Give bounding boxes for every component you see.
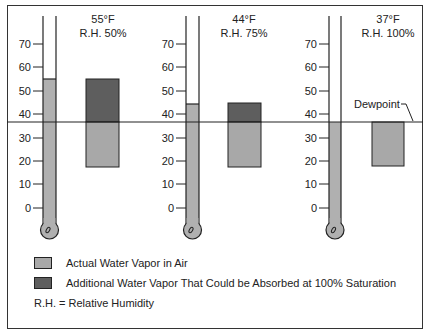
legend-swatch-actual (34, 257, 52, 269)
panel-temp-label: 37°F (376, 13, 400, 25)
legend-item-actual: Actual Water Vapor in Air (34, 257, 188, 269)
svg-text:10: 10 (162, 178, 174, 190)
panel-temp-label: 44°F (232, 13, 256, 25)
legend-swatch-additional (34, 277, 52, 289)
svg-text:40: 40 (162, 108, 174, 120)
actual-vapor-bar (228, 122, 261, 167)
svg-text:40: 40 (305, 108, 317, 120)
svg-text:60: 60 (305, 61, 317, 73)
panel-temp-label: 55°F (91, 13, 115, 25)
svg-text:70: 70 (305, 38, 317, 50)
svg-text:50: 50 (19, 85, 31, 97)
svg-text:10: 10 (19, 178, 31, 190)
legend-item-additional: Additional Water Vapor That Could be Abs… (34, 277, 396, 289)
svg-text:60: 60 (162, 61, 174, 73)
additional-vapor-bar (228, 103, 261, 122)
panel-rh-label: R.H. 75% (220, 27, 267, 39)
legend-label-actual: Actual Water Vapor in Air (66, 257, 188, 269)
svg-text:60: 60 (19, 61, 31, 73)
temperature-scale: 70 60 50 40 30 20 10 0 (162, 38, 186, 214)
svg-text:20: 20 (19, 155, 31, 167)
svg-text:0: 0 (25, 202, 31, 214)
svg-text:0: 0 (311, 202, 317, 214)
svg-text:50: 50 (162, 85, 174, 97)
panel-rh-label: R.H. 100% (361, 27, 414, 39)
panel-37f: 37°F R.H. 100% 70 60 50 40 30 20 10 0 De… (305, 13, 415, 239)
svg-text:30: 30 (162, 132, 174, 144)
svg-text:20: 20 (162, 155, 174, 167)
svg-text:20: 20 (305, 155, 317, 167)
svg-text:30: 30 (19, 132, 31, 144)
svg-text:0: 0 (168, 202, 174, 214)
svg-text:30: 30 (305, 132, 317, 144)
legend-label-additional: Additional Water Vapor That Could be Abs… (66, 277, 396, 289)
additional-vapor-bar (86, 79, 119, 122)
abbreviation-note: R.H. = Relative Humidity (34, 297, 154, 309)
panel-44f: 44°F R.H. 75% 70 60 50 40 30 20 10 0 (162, 13, 268, 239)
svg-text:50: 50 (305, 85, 317, 97)
svg-text:40: 40 (19, 108, 31, 120)
thermometer-mercury (43, 79, 56, 224)
svg-text:70: 70 (19, 38, 31, 50)
temperature-scale: 70 60 50 40 30 20 10 0 (305, 38, 329, 214)
svg-text:10: 10 (305, 178, 317, 190)
panel-rh-label: R.H. 50% (79, 27, 126, 39)
temperature-scale: 70 60 50 40 30 20 10 0 (19, 38, 43, 214)
dewpoint-label: Dewpoint (354, 98, 400, 110)
actual-vapor-bar (372, 122, 404, 166)
panel-55f: 55°F R.H. 50% 70 60 50 40 30 20 10 0 (19, 13, 127, 239)
actual-vapor-bar (86, 122, 119, 167)
dewpoint-leader-line (401, 104, 413, 121)
thermometer-mercury (329, 122, 341, 224)
svg-text:70: 70 (162, 38, 174, 50)
